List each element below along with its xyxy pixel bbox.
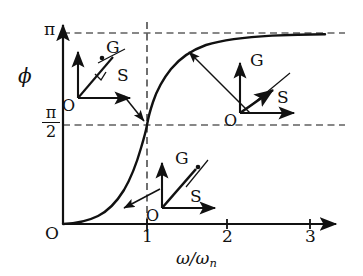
y-tick-label-pi: π (44, 21, 55, 38)
inset-above-resonance-origin-label: O (224, 113, 237, 129)
x-tick-label-2: 2 (222, 228, 233, 245)
inset-above-resonance-s-label: S (277, 89, 289, 106)
x-axis-label-subscript: n (209, 256, 216, 270)
x-axis-label-main: ω/ω (176, 248, 209, 268)
inset-below-resonance-origin-label: O (146, 208, 159, 224)
inset-at-resonance-origin-label: O (62, 98, 75, 114)
y-tick-label-pi-over-2: π 2 (42, 105, 60, 141)
x-axis-label: ω/ωn (176, 250, 217, 269)
inset-at-resonance-g-label: G (106, 39, 120, 56)
inset-below-resonance-g-label: G (175, 150, 189, 167)
origin-label: O (45, 225, 59, 242)
y-axis-label: ϕ (18, 66, 32, 86)
inset-at-resonance-s-label: S (117, 67, 129, 84)
x-tick-label-1: 1 (142, 228, 153, 245)
figure-canvas: ϕ π π 2 O 1 2 3 ω/ωn O G S O G S O G S (0, 0, 363, 276)
annotation-arrow-at-resonance (124, 96, 144, 121)
x-tick-label-3: 3 (305, 228, 316, 245)
y-tick-label-pi-over-2-numerator: π (42, 105, 60, 121)
inset-above-resonance-g-label: G (250, 52, 264, 69)
inset-below-resonance-s-label: S (190, 188, 202, 205)
y-tick-label-pi-over-2-denominator: 2 (42, 124, 60, 140)
